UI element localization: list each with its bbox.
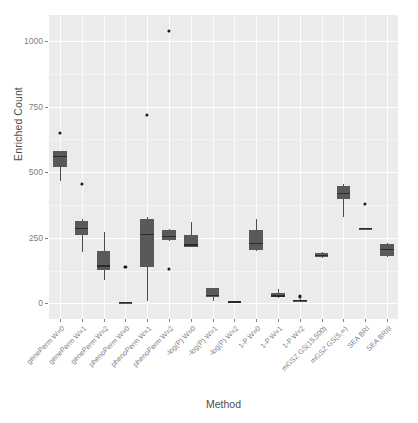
boxplot-median-line bbox=[380, 249, 394, 250]
x-axis-tick-mark bbox=[125, 319, 126, 322]
boxplot-chart: Enriched Count Method 02505007501000 gen… bbox=[0, 0, 418, 423]
gridline-major-horizontal bbox=[49, 172, 398, 173]
gridline-minor-horizontal bbox=[49, 271, 398, 272]
gridline-minor-vertical bbox=[191, 15, 192, 319]
gridline-minor-vertical bbox=[278, 15, 279, 319]
panel-background bbox=[49, 15, 398, 319]
boxplot-median-line bbox=[337, 193, 351, 194]
boxplot-iqr-rect bbox=[140, 219, 154, 267]
x-axis-tick-mark bbox=[300, 319, 301, 322]
boxplot-median-line bbox=[228, 301, 242, 302]
gridline-major-horizontal bbox=[49, 107, 398, 108]
gridline-minor-vertical bbox=[234, 15, 235, 319]
gridline-major-horizontal bbox=[49, 238, 398, 239]
x-axis-tick-mark bbox=[169, 319, 170, 322]
gridline-minor-horizontal bbox=[49, 205, 398, 206]
x-axis-tick-mark bbox=[322, 319, 323, 322]
gridline-major-horizontal bbox=[49, 41, 398, 42]
boxplot-median-line bbox=[184, 244, 198, 245]
y-axis-tick-mark bbox=[45, 303, 48, 304]
x-axis-tick-mark bbox=[213, 319, 214, 322]
y-axis-tick-label: 1000 bbox=[9, 36, 43, 46]
boxplot-median-line bbox=[97, 265, 111, 266]
x-axis-tick-mark bbox=[147, 319, 148, 322]
x-axis-tick-mark bbox=[104, 319, 105, 322]
y-axis-tick-mark bbox=[45, 172, 48, 173]
x-axis-tick-mark bbox=[256, 319, 257, 322]
y-axis-tick-mark bbox=[45, 238, 48, 239]
boxplot-median-line bbox=[206, 295, 220, 296]
gridline-minor-vertical bbox=[213, 15, 214, 319]
x-axis-tick-mark bbox=[278, 319, 279, 322]
boxplot-median-line bbox=[75, 228, 89, 229]
boxplot-iqr-rect bbox=[97, 251, 111, 270]
y-axis-tick-mark bbox=[45, 41, 48, 42]
x-axis-tick-mark bbox=[60, 319, 61, 322]
gridline-minor-vertical bbox=[300, 15, 301, 319]
boxplot-median-line bbox=[162, 236, 176, 237]
gridline-minor-vertical bbox=[322, 15, 323, 319]
x-axis-tick-mark bbox=[234, 319, 235, 322]
x-axis-title: Method bbox=[49, 398, 398, 410]
x-axis-tick-mark bbox=[82, 319, 83, 322]
boxplot-median-line bbox=[53, 156, 67, 157]
boxplot-median-line bbox=[315, 255, 329, 256]
gridline-minor-vertical bbox=[387, 15, 388, 319]
y-axis-tick-label: 250 bbox=[9, 233, 43, 243]
x-axis-tick-mark bbox=[191, 319, 192, 322]
gridline-minor-vertical bbox=[256, 15, 257, 319]
x-axis-tick-mark bbox=[387, 319, 388, 322]
boxplot-median-line bbox=[293, 300, 307, 301]
x-axis-tick-mark bbox=[343, 319, 344, 322]
x-axis-tick-mark bbox=[365, 319, 366, 322]
y-axis-tick-label: 750 bbox=[9, 102, 43, 112]
gridline-minor-vertical bbox=[125, 15, 126, 319]
gridline-minor-vertical bbox=[365, 15, 366, 319]
boxplot-median-line bbox=[271, 295, 285, 296]
gridline-minor-horizontal bbox=[49, 139, 398, 140]
boxplot-median-line bbox=[359, 228, 373, 229]
gridline-major-horizontal bbox=[49, 303, 398, 304]
boxplot-median-line bbox=[140, 234, 154, 235]
gridline-minor-vertical bbox=[169, 15, 170, 319]
boxplot-iqr-rect bbox=[249, 230, 263, 250]
gridline-minor-vertical bbox=[82, 15, 83, 319]
boxplot-iqr-rect bbox=[53, 151, 67, 167]
gridline-minor-vertical bbox=[343, 15, 344, 319]
boxplot-median-line bbox=[249, 243, 263, 244]
boxplot-median-line bbox=[119, 302, 133, 303]
y-axis-tick-label: 0 bbox=[9, 298, 43, 308]
y-axis-tick-label: 500 bbox=[9, 167, 43, 177]
gridline-minor-horizontal bbox=[49, 74, 398, 75]
y-axis-tick-mark bbox=[45, 107, 48, 108]
